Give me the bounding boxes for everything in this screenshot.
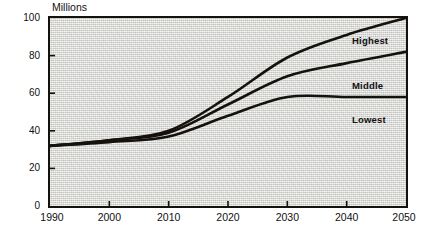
y-tick-label-40: 40 (0, 126, 40, 136)
y-tick-label-0: 0 (0, 201, 40, 211)
series-label-middle: Middle (352, 81, 383, 91)
x-tick-label-1990: 1990 (30, 212, 74, 223)
y-tick-label-80: 80 (0, 51, 40, 61)
series-line-middle (50, 52, 406, 146)
x-tick-label-2040: 2040 (325, 212, 369, 223)
y-tick-label-60: 60 (0, 88, 40, 98)
x-tick-label-2000: 2000 (87, 212, 131, 223)
series-label-lowest: Lowest (352, 115, 386, 125)
series-lines (50, 18, 406, 206)
y-tick-label-20: 20 (0, 163, 40, 173)
x-tick-label-2050: 2050 (382, 212, 421, 223)
y-axis-title: Millions (52, 2, 87, 13)
series-label-highest: Highest (352, 36, 388, 46)
x-tick-label-2020: 2020 (206, 212, 250, 223)
line-chart: Millions 100806040200 199020002010202020… (0, 0, 421, 240)
x-tick-label-2010: 2010 (147, 212, 191, 223)
x-tick-label-2030: 2030 (265, 212, 309, 223)
y-tick-label-100: 100 (0, 13, 40, 23)
